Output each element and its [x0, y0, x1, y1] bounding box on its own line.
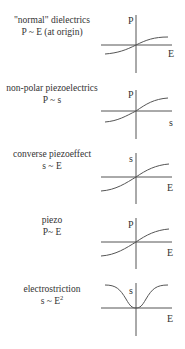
x-axis-label: E: [167, 247, 173, 258]
y-axis-label: P: [128, 89, 134, 100]
x-axis-label: E: [167, 182, 173, 193]
graph-non-polar-piezoelectrics: P s: [101, 89, 173, 139]
graph-piezo: P E: [101, 218, 173, 269]
y-axis-label: P: [128, 219, 134, 230]
graphs-canvas: P E P s s E P E s E: [0, 0, 185, 349]
graph-converse-piezoeffect: s E: [101, 153, 173, 204]
x-axis-label: E: [167, 313, 173, 324]
y-axis-label: P: [128, 15, 134, 26]
x-axis-label: s: [169, 117, 173, 128]
x-axis-label: E: [168, 48, 174, 59]
graph-normal-dielectrics: P E: [101, 15, 174, 73]
y-axis-label: s: [129, 153, 133, 164]
graph-electrostriction: s E: [101, 283, 173, 336]
y-axis-label: s: [129, 285, 133, 296]
